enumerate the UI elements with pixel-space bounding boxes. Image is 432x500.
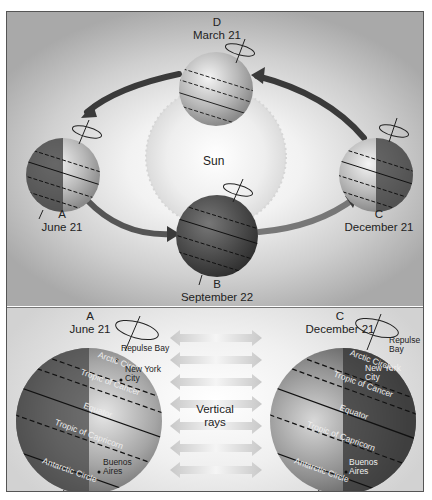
label-letter-d: D xyxy=(197,16,237,29)
orbit-panel: D March 21 Sun A June 21 B September 22 … xyxy=(7,12,423,306)
label-letter-a: A xyxy=(42,208,82,221)
label-date-december: December 21 xyxy=(339,221,419,234)
label-date-september: September 22 xyxy=(172,291,262,304)
right-city-buenos-aires: Buenos Aires xyxy=(349,458,385,476)
label-letter-c: C xyxy=(359,208,399,221)
closeup-right-date: December 21 xyxy=(305,323,375,336)
left-city-buenos-aires: Buenos Aires xyxy=(103,458,139,476)
diagram-frame: D March 21 Sun A June 21 B September 22 … xyxy=(6,11,424,492)
closeup-left-letter: A xyxy=(75,310,105,323)
closeup-right-letter: C xyxy=(325,310,355,323)
vertical-rays-label-2: rays xyxy=(185,416,245,429)
left-city-repulse-bay: Repulse Bay xyxy=(121,344,169,353)
left-city-new-york: New York City xyxy=(125,365,165,383)
closeup-left-date: June 21 xyxy=(65,323,115,336)
right-city-repulse-bay: Repulse Bay xyxy=(389,336,423,354)
label-date-march: March 21 xyxy=(182,29,252,42)
sun-label: Sun xyxy=(203,154,224,168)
vertical-rays-label-1: Vertical xyxy=(185,403,245,416)
right-city-new-york: New York City xyxy=(365,364,405,382)
label-date-june: June 21 xyxy=(27,221,97,234)
label-letter-b: B xyxy=(197,278,237,291)
closeup-panel: A June 21 Arctic Circle Tropic of Cancer… xyxy=(7,307,423,492)
